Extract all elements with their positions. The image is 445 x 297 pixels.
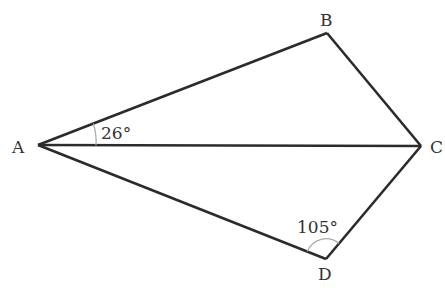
segment-DA — [38, 145, 326, 259]
segment-AB — [38, 33, 327, 145]
vertex-label-D: D — [318, 264, 332, 284]
angle-label-A: 26° — [101, 123, 131, 143]
segment-CD — [326, 146, 421, 259]
segment-BC — [327, 33, 421, 146]
kite-diagram: A B C D 26° 105° — [0, 0, 445, 297]
vertex-label-C: C — [430, 137, 443, 157]
vertex-label-B: B — [320, 10, 333, 30]
angle-label-D: 105° — [297, 217, 338, 237]
vertex-label-A: A — [11, 137, 25, 157]
angle-arc-A — [93, 124, 96, 146]
